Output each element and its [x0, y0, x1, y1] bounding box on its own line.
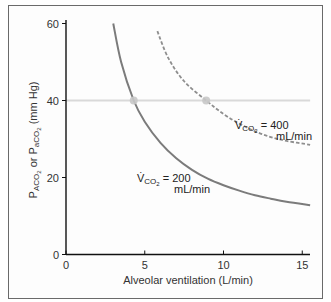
- x-tick-label: 0: [63, 259, 69, 271]
- annotation-vco2-400-units: mL/min: [276, 130, 312, 142]
- chart: 0204060 051015 PACO2 or PaCO2 (mm Hg) Al…: [0, 0, 331, 302]
- intersection-marker: [130, 97, 138, 105]
- annotation-vco2-200-units: mL/min: [174, 183, 210, 195]
- y-tick-label: 0: [53, 249, 59, 261]
- y-axis-title: PACO2 or PaCO2 (mm Hg): [27, 82, 42, 199]
- x-tick-label: 15: [296, 259, 308, 271]
- x-ticks: 051015: [63, 251, 308, 271]
- x-tick-label: 10: [217, 259, 229, 271]
- x-tick-label: 5: [142, 259, 148, 271]
- y-tick-label: 60: [47, 18, 59, 30]
- intersection-marker: [202, 97, 210, 105]
- x-axis-title: Alveolar ventilation (L/min): [123, 274, 253, 286]
- y-ticks: 0204060: [47, 18, 66, 261]
- y-tick-label: 40: [47, 95, 59, 107]
- y-tick-label: 20: [47, 172, 59, 184]
